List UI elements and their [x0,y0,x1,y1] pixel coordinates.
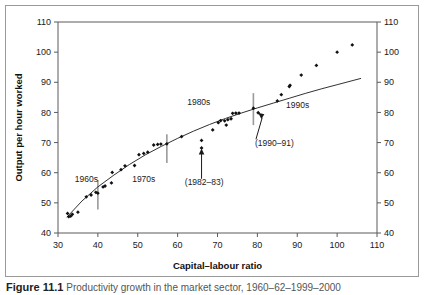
y-tick-label-right-80: 80 [384,108,394,118]
data-point [165,142,169,146]
data-point [159,142,163,146]
data-point [152,143,156,147]
figure-container: 4050607080901001104050607080901001103040… [0,0,426,295]
data-point [200,139,204,143]
data-point [76,210,80,214]
data-point [224,123,228,127]
x-tick-label-80: 80 [252,240,262,250]
y-tick-label-left-60: 60 [41,168,51,178]
chart-canvas: 4050607080901001104050607080901001103040… [0,0,426,295]
y-axis-title: Output per hour worked [13,73,24,181]
data-point [279,93,283,97]
caption-text: Productivity growth in the market sector… [66,282,341,293]
y-tick-label-left-90: 90 [41,77,51,87]
era-label-1990s: 1990s [286,100,309,110]
era-label-1960s: 1960s [75,174,98,184]
x-tick-label-90: 90 [292,240,302,250]
y-tick-label-right-50: 50 [384,198,394,208]
annotation-label-0: (1982–83) [185,177,224,187]
data-point [156,142,160,146]
y-tick-label-right-60: 60 [384,168,394,178]
data-point [335,50,339,54]
data-point [146,150,150,154]
x-tick-label-100: 100 [330,240,345,250]
annotation-label-1: (1990–91) [255,138,294,148]
data-point [133,164,137,168]
annotation-arrow-line-1 [256,118,262,139]
data-point [110,171,114,175]
annotation-arrow-head-1 [258,113,264,119]
data-point [350,43,354,47]
trend-curve [67,78,361,217]
data-point [110,181,114,185]
y-tick-label-left-40: 40 [41,228,51,238]
data-point [231,111,235,115]
y-tick-label-left-110: 110 [37,17,51,27]
y-tick-label-right-40: 40 [384,228,394,238]
y-tick-label-left-50: 50 [41,198,51,208]
data-point [180,135,184,139]
x-tick-label-30: 30 [53,240,63,250]
caption-label: Figure 11.1 [6,281,63,293]
y-tick-label-right-100: 100 [384,47,399,57]
x-tick-label-110: 110 [370,240,384,250]
x-tick-label-50: 50 [133,240,143,250]
y-tick-label-left-80: 80 [41,108,51,118]
x-tick-label-70: 70 [212,240,222,250]
figure-caption: Figure 11.1 Productivity growth in the m… [6,281,424,295]
x-axis-title: Capital–labour ratio [173,260,262,271]
annotation-arrow-head-0 [199,149,205,155]
data-point [211,128,215,132]
y-tick-label-right-70: 70 [384,138,394,148]
era-label-1980s: 1980s [187,97,210,107]
y-tick-label-left-100: 100 [36,47,51,57]
y-tick-label-right-90: 90 [384,77,394,87]
data-point [299,73,303,77]
y-tick-label-left-70: 70 [41,138,51,148]
data-point [137,153,141,157]
data-point [314,64,318,68]
y-tick-label-right-110: 110 [384,17,398,27]
x-tick-label-40: 40 [93,240,103,250]
era-label-1970s: 1970s [132,174,155,184]
x-tick-label-60: 60 [173,240,183,250]
